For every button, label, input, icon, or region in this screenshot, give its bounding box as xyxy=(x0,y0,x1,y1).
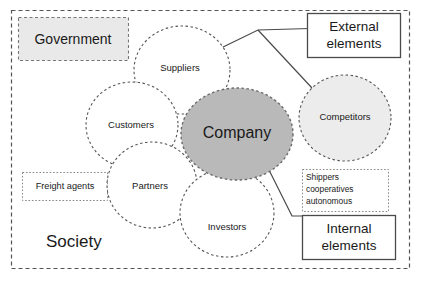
venn-diagram: Suppliers Customers Partners Investors C… xyxy=(0,0,421,283)
diagram-canvas: Suppliers Customers Partners Investors C… xyxy=(0,0,421,283)
circle-investors[interactable] xyxy=(180,169,274,257)
label-customers: Customers xyxy=(108,119,154,130)
label-competitors: Competitors xyxy=(319,111,370,122)
label-partners: Partners xyxy=(132,180,168,191)
label-external-elements-line1: External xyxy=(329,19,379,34)
connector-external-to-competitors xyxy=(258,30,312,88)
label-suppliers: Suppliers xyxy=(160,62,200,73)
label-investors: Investors xyxy=(208,221,247,232)
label-shippers-line1: Shippers xyxy=(306,172,339,182)
label-internal-elements-line2: elements xyxy=(322,238,377,253)
label-government: Government xyxy=(34,31,111,47)
label-shippers-line2: cooperatives xyxy=(306,184,354,194)
label-external-elements-line2: elements xyxy=(327,36,382,51)
label-society: Society xyxy=(46,232,102,251)
label-shippers-line3: autonomous xyxy=(306,196,352,206)
label-freight-agents: Freight agents xyxy=(36,181,95,191)
label-internal-elements-line1: Internal xyxy=(326,221,371,236)
label-company: Company xyxy=(203,124,271,141)
